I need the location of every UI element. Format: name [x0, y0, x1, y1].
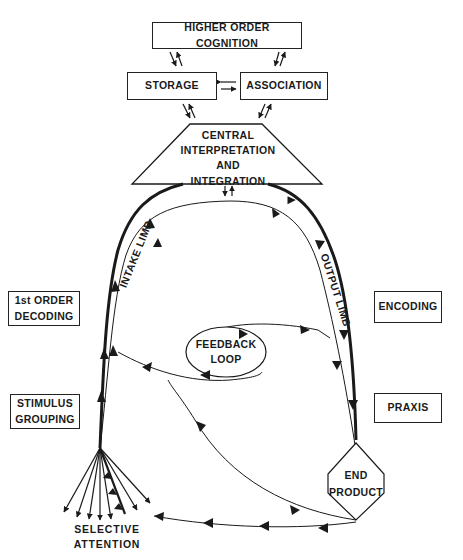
central-line-4: INTEGRATION — [172, 174, 284, 189]
central-line-3: AND — [172, 158, 284, 173]
central-line-1: CENTRAL — [172, 128, 284, 143]
end-product-label: END PRODUCT — [326, 468, 386, 500]
stimulus-grouping-box: STIMULUS GROUPING — [10, 394, 80, 429]
first-order-line-1: 1st ORDER — [15, 293, 74, 308]
first-order-line-2: DECODING — [15, 309, 74, 324]
selective-attention-fan — [64, 448, 150, 520]
association-box: ASSOCIATION — [240, 72, 328, 100]
stimulus-line-2: GROUPING — [15, 412, 75, 427]
feedback-line-1: FEEDBACK — [190, 337, 262, 352]
stimulus-line-1: STIMULUS — [17, 396, 73, 411]
feedback-line-2: LOOP — [190, 352, 262, 367]
end-product-line-2: PRODUCT — [326, 485, 386, 500]
encoding-box: ENCODING — [374, 291, 442, 323]
diagram-canvas — [0, 0, 463, 560]
selective-attention-label: SELECTIVE ATTENTION — [42, 522, 172, 552]
storage-box: STORAGE — [127, 72, 217, 100]
central-line-2: INTERPRETATION — [172, 143, 284, 158]
feedback-loop-label: FEEDBACK LOOP — [190, 337, 262, 367]
higher-order-cognition-box: HIGHER ORDER COGNITION — [152, 22, 302, 49]
central-interpretation-label: CENTRAL INTERPRETATION AND INTEGRATION — [172, 128, 284, 189]
first-order-decoding-box: 1st ORDER DECODING — [8, 291, 80, 326]
end-product-line-1: END — [326, 468, 386, 483]
praxis-box: PRAXIS — [374, 393, 442, 423]
